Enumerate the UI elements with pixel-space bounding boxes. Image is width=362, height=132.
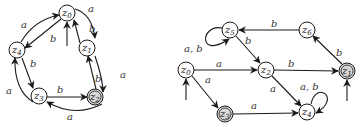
state-z2: z2 (258, 62, 274, 78)
state-z1-accepting: z1 (339, 63, 355, 79)
edge-label-z4-z0: a (21, 19, 27, 30)
state-z0: z0 (59, 5, 75, 21)
edge-label-z2-z1: b (95, 73, 101, 84)
edge-label-z0-z2: a (216, 58, 222, 69)
edge-label-z6-z5: b (271, 18, 277, 29)
state-z4: z4 (299, 104, 315, 120)
state-z6: z6 (299, 22, 315, 38)
automata-figure: a b a b b a b a a b z0 (0, 0, 362, 132)
edge-label-z4-z3: b (30, 58, 36, 69)
edge-label-z3-z4: a (6, 85, 12, 96)
edge-label-z3-z4: a (251, 100, 257, 111)
edge-z2-z4 (272, 76, 301, 106)
state-z5: z5 (222, 22, 238, 38)
state-z1: z1 (79, 40, 95, 56)
edge-label-z5-loop: a, b (184, 43, 203, 54)
edge-label-z2-z4: a (270, 83, 276, 94)
left-automaton: a b a b b a b a a b z0 (6, 3, 126, 122)
edge-label-z5-z2: b (245, 35, 251, 46)
right-automaton: a a a a b b b b a, b a, b z0 (178, 18, 355, 122)
edge-z2-z1 (274, 70, 338, 71)
edge-label-z1-z2: a (120, 69, 126, 80)
edge-z3-z4 (233, 113, 298, 114)
edge-label-z0-z3: a (205, 74, 211, 85)
state-z3: z3 (31, 88, 47, 104)
state-z3-accepting: z3 (217, 106, 233, 122)
edge-label-z3-z2: b (57, 84, 63, 95)
state-z0: z0 (178, 62, 194, 78)
edge-label-z2-z3: a (67, 111, 73, 122)
edge-label-z0-z1: a (88, 3, 94, 14)
edge-label-z4-loop: a, b (300, 81, 319, 92)
edge-z1-z0 (74, 20, 80, 43)
edge-label-z1-z0: b (89, 23, 95, 34)
state-z2-accepting: z2 (87, 89, 103, 105)
edge-label-z1-z6: b (336, 47, 342, 58)
edge-label-z2-z1: b (288, 58, 294, 69)
edge-label-z0-z4: b (50, 33, 56, 44)
state-z4: z4 (9, 42, 25, 58)
